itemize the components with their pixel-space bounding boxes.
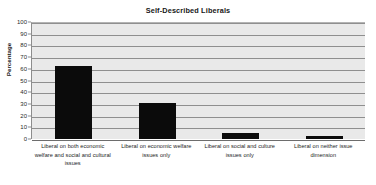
y-tick-label-0: 0 xyxy=(24,136,27,142)
y-tick-label-30: 30 xyxy=(20,101,27,107)
y-tick-label-10: 10 xyxy=(20,124,27,130)
x-axis-label: Liberal on neither issue dimension xyxy=(284,142,364,159)
y-tick-label-60: 60 xyxy=(20,66,27,72)
chart-title: Self-Described Liberals xyxy=(0,6,376,15)
bar[interactable] xyxy=(55,66,92,139)
bar[interactable] xyxy=(222,133,259,139)
x-axis-label: Liberal on both economic welfare and soc… xyxy=(33,142,113,168)
y-tick-label-20: 20 xyxy=(20,113,27,119)
bar[interactable] xyxy=(306,136,343,140)
y-tick-label-100: 100 xyxy=(17,19,27,25)
bar[interactable] xyxy=(139,103,176,139)
gridline-0 xyxy=(32,140,365,141)
plot-area xyxy=(31,22,365,139)
x-axis-label: Liberal on social and culture issues onl… xyxy=(200,142,280,159)
x-axis-category-labels: Liberal on both economic welfare and soc… xyxy=(31,142,365,185)
y-axis-tick-labels: 0102030405060708090100 xyxy=(0,22,31,139)
y-tick-label-40: 40 xyxy=(20,89,27,95)
bars-layer xyxy=(32,23,365,139)
x-axis-label: Liberal on economic welfare issues only xyxy=(117,142,197,159)
y-tick-label-90: 90 xyxy=(20,31,27,37)
y-tick-label-70: 70 xyxy=(20,54,27,60)
y-tick-label-50: 50 xyxy=(20,78,27,84)
bar-chart: Self-Described Liberals Percentage 01020… xyxy=(0,0,376,185)
y-tick-label-80: 80 xyxy=(20,42,27,48)
